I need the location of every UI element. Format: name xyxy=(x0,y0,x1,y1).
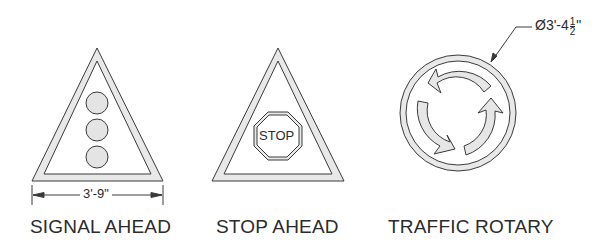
diameter-suffix: " xyxy=(576,17,581,33)
stop-ahead-sign xyxy=(212,48,344,181)
stop-ahead-label: STOP AHEAD xyxy=(216,216,339,238)
traffic-rotary-dimension: Ø3'-412" xyxy=(535,17,581,36)
signal-light-top-icon xyxy=(86,92,108,114)
signal-ahead-sign xyxy=(32,48,163,181)
diameter-prefix: Ø3'-4 xyxy=(535,17,569,33)
signal-light-middle-icon xyxy=(86,119,108,141)
stop-symbol-text: STOP xyxy=(259,128,294,143)
traffic-rotary-sign xyxy=(400,55,516,171)
signal-light-bottom-icon xyxy=(86,146,108,168)
traffic-rotary-label: TRAFFIC ROTARY xyxy=(388,216,554,238)
signal-ahead-label: SIGNAL AHEAD xyxy=(30,216,171,238)
drawing-canvas xyxy=(0,0,606,244)
diameter-leader xyxy=(491,27,532,62)
diameter-fraction: 12 xyxy=(570,17,576,36)
signal-ahead-dimension: 3'-9" xyxy=(80,186,112,201)
